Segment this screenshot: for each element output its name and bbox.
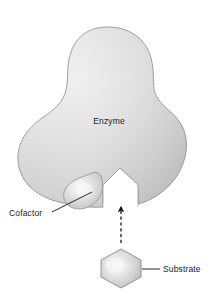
enzyme-diagram-figure: Enzyme Cofactor Substrate <box>0 0 218 299</box>
diagram-canvas: Enzyme Cofactor Substrate <box>0 0 218 299</box>
substrate-highlight <box>105 257 125 273</box>
substrate-group <box>101 249 141 288</box>
enzyme-label: Enzyme <box>93 116 125 126</box>
cofactor-label: Cofactor <box>9 208 42 218</box>
cofactor-highlight <box>75 183 93 197</box>
substrate-label: Substrate <box>163 264 201 274</box>
